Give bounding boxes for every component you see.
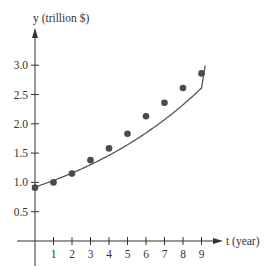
data-point — [180, 85, 187, 92]
chart: 1234567890.51.01.52.02.53.0 y (trillion … — [0, 0, 273, 271]
data-point — [124, 130, 131, 137]
x-tick-label: 5 — [125, 248, 131, 260]
data-point — [161, 99, 168, 106]
fitted-curve-line — [35, 66, 205, 187]
y-tick-label: 0.5 — [14, 206, 29, 218]
data-point — [32, 184, 39, 191]
data-points — [32, 70, 205, 191]
data-point — [87, 157, 94, 164]
y-tick-label: 1.5 — [14, 147, 29, 159]
y-tick-label: 3.0 — [14, 59, 29, 71]
x-tick-label: 3 — [88, 248, 94, 260]
x-tick-label: 4 — [106, 248, 112, 260]
fitted-curve — [35, 66, 205, 187]
y-tick-label: 1.0 — [14, 176, 29, 188]
x-tick-label: 9 — [199, 248, 205, 260]
data-point — [69, 170, 76, 177]
y-tick-label: 2.5 — [14, 89, 29, 101]
x-tick-label: 6 — [143, 248, 149, 260]
data-point — [50, 179, 57, 186]
x-tick-label: 7 — [162, 248, 168, 260]
x-tick-label: 2 — [69, 248, 75, 260]
data-point — [106, 145, 113, 152]
x-tick-label: 1 — [51, 248, 57, 260]
data-point — [143, 113, 150, 120]
y-axis-label: y (trillion $) — [33, 12, 89, 25]
x-tick-label: 8 — [180, 248, 186, 260]
y-tick-label: 2.0 — [14, 118, 29, 130]
y-axis-arrow-icon — [32, 28, 38, 38]
data-point — [198, 70, 205, 77]
x-axis-arrow-icon — [213, 238, 223, 244]
axes: 1234567890.51.01.52.02.53.0 — [14, 28, 223, 266]
x-axis-label: t (year) — [226, 235, 260, 248]
